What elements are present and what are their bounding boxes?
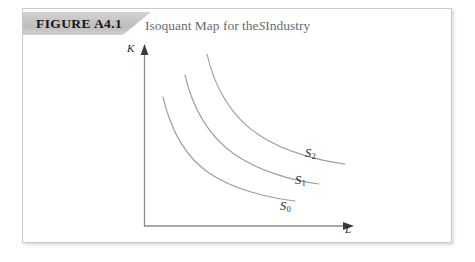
curve-label-s0-subscript: 0 [287,205,291,214]
plot-area: K L S2 S1 S0 [23,9,451,242]
isoquant-curve-s2 [207,54,345,164]
curve-label-s2: S2 [305,146,315,161]
isoquant-curve-s0 [163,97,295,201]
x-axis-label: L [345,223,351,235]
curve-label-s1: S1 [295,173,305,188]
y-axis-arrowhead [141,44,149,55]
curve-label-s2-text: S [305,146,311,160]
curve-label-s1-subscript: 1 [302,179,306,188]
figure-container: FIGURE A4.1 Isoquant Map for the S Indus… [0,0,475,262]
figure-frame: FIGURE A4.1 Isoquant Map for the S Indus… [22,8,452,243]
curve-label-s0-text: S [280,199,286,213]
y-axis-label: K [127,42,134,54]
curve-label-s1-text: S [295,173,301,187]
isoquant-plot-svg [23,9,453,244]
curve-label-s0: S0 [280,199,290,214]
curve-label-s2-subscript: 2 [312,152,316,161]
